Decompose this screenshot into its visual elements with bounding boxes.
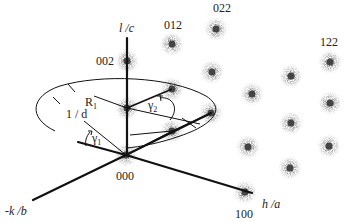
001-to-right xyxy=(127,108,200,124)
r1-tick-1 xyxy=(68,84,75,92)
lattice-spot xyxy=(160,32,184,56)
lattice-spot xyxy=(318,91,342,115)
k-axis xyxy=(33,155,126,200)
spot-label-000: 000 xyxy=(116,169,134,183)
spot-core xyxy=(245,144,252,151)
spot-core xyxy=(288,120,295,127)
lattice-spot xyxy=(200,60,224,84)
lattice-spot xyxy=(278,156,302,180)
spot-label-022: 022 xyxy=(213,1,231,15)
h-axis-label: h /a xyxy=(262,197,280,211)
spot-core xyxy=(213,26,220,33)
spot-label-100: 100 xyxy=(235,207,253,221)
h-axis xyxy=(126,155,252,193)
l-axis-label: l /c xyxy=(119,21,135,35)
spot-core xyxy=(249,91,256,98)
spot-core xyxy=(287,165,294,172)
spot-core xyxy=(288,73,295,80)
spot-core xyxy=(327,59,334,66)
lattice-spot xyxy=(240,82,264,106)
spot-label-002: 002 xyxy=(96,54,114,68)
reciprocal-lattice-diagram: l /c h /a -k /b R1 1 / d γ2 γ1 000 100 0… xyxy=(0,0,346,223)
inv-d-label: 1 / d xyxy=(66,107,87,121)
spot-core xyxy=(327,100,334,107)
lattice-spot xyxy=(204,17,228,41)
lattice-spot xyxy=(317,134,341,158)
lattice-spot xyxy=(236,135,260,159)
k-axis-label: -k /b xyxy=(5,204,27,218)
gamma2-label: γ2 xyxy=(147,98,157,114)
r1-tick-2 xyxy=(53,97,60,104)
spot-label-122: 122 xyxy=(320,35,338,49)
lattice-spot xyxy=(279,111,303,135)
spot-core xyxy=(326,143,333,150)
lattice-spot xyxy=(279,64,303,88)
spot-label-012: 012 xyxy=(164,18,182,32)
spot-core xyxy=(169,41,176,48)
lattice-spot xyxy=(318,50,342,74)
spot-core xyxy=(209,69,216,76)
